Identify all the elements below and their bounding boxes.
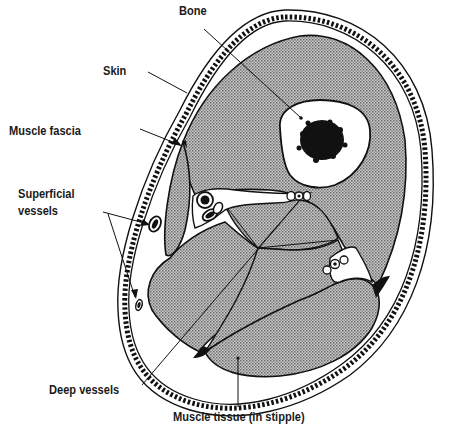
label-bone: Bone [179, 3, 207, 19]
label-deep-vessels: Deep vessels [49, 382, 119, 398]
label-superficial-vessels-1: Superficial [18, 186, 75, 202]
skin-leader [148, 72, 187, 93]
label-skin: Skin [103, 63, 126, 79]
label-superficial-vessels-2: vessels [18, 203, 58, 219]
limb-cross-section-diagram [0, 0, 458, 433]
muscle-tissue [148, 35, 406, 376]
label-muscle-tissue: Muscle tissue (in stipple) [173, 409, 305, 425]
label-muscle-fascia: Muscle fascia [9, 123, 81, 139]
